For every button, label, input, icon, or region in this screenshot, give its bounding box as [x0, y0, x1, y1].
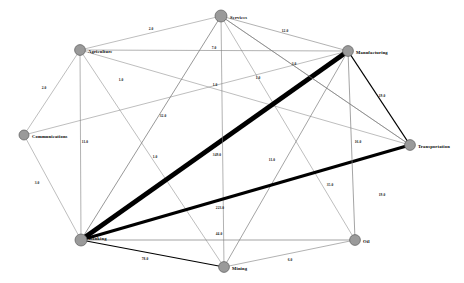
edge-weight-label: 349.0 [213, 153, 222, 157]
graph-edge [81, 240, 224, 267]
graph-edge [221, 16, 348, 51]
graph-edge [80, 50, 348, 51]
node-label-manufacturing: Manufacturing [356, 50, 388, 55]
edge-weight-label: 35.0 [327, 183, 334, 187]
edge-weight-label: 32.0 [160, 114, 167, 118]
network-graph-svg: 2.012.07.03.02.01.01.01.019.032.011.01.0… [0, 0, 464, 283]
node-label-communications: Communications [32, 134, 68, 139]
edge-weight-label: 19.0 [379, 193, 386, 197]
graph-edge [24, 50, 80, 135]
graph-node-communications[interactable]: Communications [19, 130, 68, 140]
node-circle-banking[interactable] [75, 234, 87, 246]
node-circle-communications[interactable] [19, 130, 29, 140]
graph-edge [221, 16, 410, 145]
edge-weight-label: 1.0 [213, 83, 218, 87]
graph-edge [80, 50, 81, 240]
node-label-oil: Oil [363, 239, 370, 244]
node-label-agriculture: Agriculture [88, 49, 113, 54]
graph-node-oil[interactable]: Oil [350, 235, 371, 246]
graph-edge [224, 51, 348, 267]
node-circle-manufacturing[interactable] [343, 46, 354, 57]
edge-weight-label: 16.0 [355, 140, 362, 144]
edge-weight-label: 2.0 [149, 27, 154, 31]
node-circle-oil[interactable] [350, 235, 361, 246]
node-label-banking: Banking [89, 236, 107, 241]
graph-edge [80, 16, 221, 50]
edge-weight-label: 19.0 [379, 94, 386, 98]
graph-edge [24, 51, 348, 135]
edge-weight-label: 1.0 [153, 155, 158, 159]
graph-edge [24, 135, 81, 240]
graph-edge [81, 145, 410, 240]
node-circle-mining[interactable] [219, 262, 230, 273]
edge-weight-label: 7.0 [212, 46, 217, 50]
edge-weight-label: 1.0 [119, 78, 124, 82]
edge-weight-label: 3.0 [35, 181, 40, 185]
edge-weight-label: 78.0 [142, 257, 149, 261]
edge-weight-label: 2.0 [42, 86, 47, 90]
edge-weight-label: 6.0 [288, 258, 293, 262]
edge-weight-label: 11.0 [269, 158, 275, 162]
graph-edge [80, 50, 410, 145]
graph-edge [348, 51, 355, 240]
graph-edge [224, 240, 355, 267]
node-label-mining: Mining [232, 266, 248, 271]
node-circle-transportation[interactable] [405, 140, 416, 151]
edge-weight-label: 11.0 [82, 140, 88, 144]
network-graph-canvas: 2.012.07.03.02.01.01.01.019.032.011.01.0… [0, 0, 464, 283]
graph-node-services[interactable]: Services [215, 10, 247, 22]
graph-node-transportation[interactable]: Transportation [405, 140, 451, 151]
graph-node-manufacturing[interactable]: Manufacturing [343, 46, 389, 57]
node-circle-agriculture[interactable] [75, 45, 86, 56]
edge-weight-label: 223.0 [216, 206, 225, 210]
edge-weight-label: 1.0 [256, 76, 261, 80]
edge-weight-label: 12.0 [282, 29, 289, 33]
edge-weight-label: 3.0 [292, 62, 297, 66]
edge-weight-label: 44.0 [216, 232, 223, 236]
node-circle-services[interactable] [215, 10, 227, 22]
graph-edge [348, 51, 410, 145]
node-label-transportation: Transportation [418, 144, 450, 149]
node-label-services: Services [230, 15, 247, 20]
